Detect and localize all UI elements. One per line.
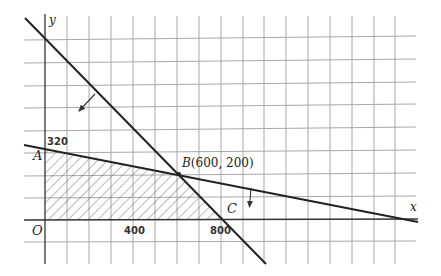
origin-label: O (32, 223, 43, 238)
point-c-label: C (227, 201, 237, 216)
y-axis-label: y (48, 13, 56, 27)
point-b-letter: B (181, 156, 191, 170)
point-b-marker (177, 172, 181, 176)
tick-label-x-800: 800 (210, 225, 231, 236)
tick-label-y-320: 320 (47, 136, 68, 147)
point-a-label: A (32, 148, 42, 163)
arrow-icon (250, 188, 252, 207)
point-b-label: B(600, 200) (181, 156, 254, 170)
arrow-icon (79, 94, 95, 111)
tick-label-x-400: 400 (124, 225, 145, 236)
point-b-coords: (600, 200) (191, 156, 254, 170)
lp-diagram: y x O 320 A B(600, 200) C 400 800 (0, 0, 441, 276)
x-axis-label: x (410, 200, 417, 214)
